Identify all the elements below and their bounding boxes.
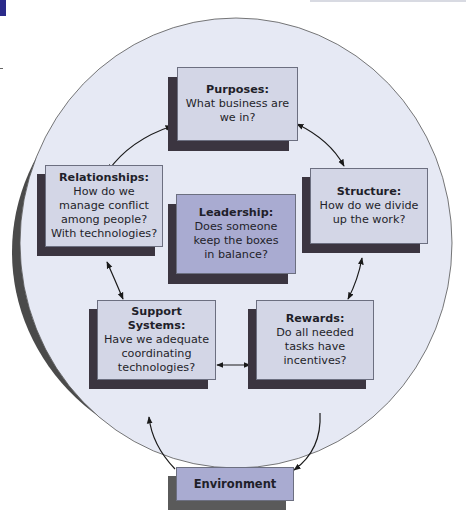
leadership-title: Leadership: bbox=[199, 206, 273, 220]
support-systems-title: Support Systems: bbox=[122, 305, 192, 333]
relationships-box: Relationships: How do we manage conflict… bbox=[45, 165, 163, 247]
rewards-box: Rewards: Do all needed tasks have incent… bbox=[256, 300, 374, 380]
purposes-title: Purposes: bbox=[206, 83, 269, 97]
leadership-question: Does someone keep the boxes in balance? bbox=[187, 220, 285, 262]
relationships-question: How do we manage conflict among people? … bbox=[50, 185, 158, 241]
environment-title: Environment bbox=[194, 477, 277, 491]
leadership-box: Leadership: Does someone keep the boxes … bbox=[176, 194, 296, 274]
support-systems-question: Have we adequate coordinating technologi… bbox=[103, 333, 211, 375]
rewards-title: Rewards: bbox=[286, 312, 345, 326]
environment-box: Environment bbox=[176, 467, 294, 501]
support-systems-box: Support Systems: Have we adequate coordi… bbox=[97, 300, 216, 380]
structure-title: Structure: bbox=[337, 185, 401, 199]
structure-box: Structure: How do we divide up the work? bbox=[310, 168, 428, 244]
rewards-question: Do all needed tasks have incentives? bbox=[261, 326, 369, 368]
structure-question: How do we divide up the work? bbox=[317, 199, 421, 227]
purposes-box: Purposes: What business are we in? bbox=[177, 67, 298, 141]
purposes-question: What business are we in? bbox=[186, 97, 290, 125]
relationships-title: Relationships: bbox=[59, 171, 149, 185]
